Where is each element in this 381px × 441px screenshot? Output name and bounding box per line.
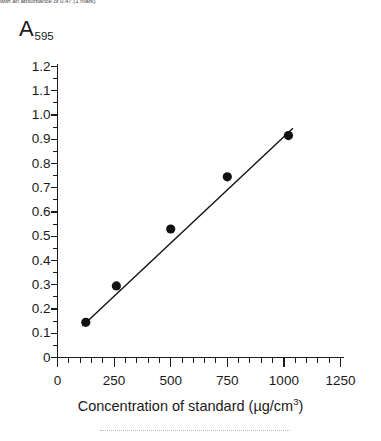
x-axis-ticks	[58, 358, 341, 367]
y-axis-tick-label: 0.2	[17, 302, 51, 316]
chart-plot-area: 00.10.20.30.40.50.60.70.80.91.01.11.2 02…	[0, 0, 381, 441]
y-axis-tick-label: 0.3	[17, 278, 51, 292]
x-axis-tick-label: 1000	[254, 374, 314, 388]
y-axis-tick-label: 1.0	[17, 108, 51, 122]
y-axis-tick-label: 0	[17, 351, 51, 365]
y-axis-tick-label: 1.2	[17, 60, 51, 74]
y-axis-tick-label: 0.6	[17, 205, 51, 219]
data-point-marker	[81, 318, 90, 327]
x-axis-tick-label: 750	[197, 374, 257, 388]
y-axis-tick-label: 0.9	[17, 132, 51, 146]
axis-lines	[58, 64, 344, 358]
y-axis-tick-label: 0.1	[17, 326, 51, 340]
x-axis-title-close: )	[298, 398, 303, 414]
x-axis-tick-label: 250	[84, 374, 144, 388]
y-axis-tick-label: 1.1	[17, 84, 51, 98]
data-point-marker	[112, 281, 121, 290]
page-dotted-rule	[100, 430, 290, 432]
x-axis-title-main: Concentration of standard (µg/cm	[78, 398, 294, 414]
data-point-marker	[284, 131, 293, 140]
y-axis-tick-label: 0.4	[17, 254, 51, 268]
data-point-marker	[166, 224, 175, 233]
x-axis-tick-label: 0	[28, 374, 88, 388]
y-axis-tick-label: 0.8	[17, 157, 51, 171]
y-axis-tick-label: 0.5	[17, 229, 51, 243]
y-axis-ticks	[51, 67, 58, 358]
x-axis-title: Concentration of standard (µg/cm3)	[0, 398, 381, 414]
x-axis-tick-label: 1250	[311, 374, 371, 388]
y-axis-tick-label: 0.7	[17, 181, 51, 195]
data-point-marker	[223, 172, 232, 181]
x-axis-tick-label: 500	[141, 374, 201, 388]
trendline	[82, 128, 293, 326]
